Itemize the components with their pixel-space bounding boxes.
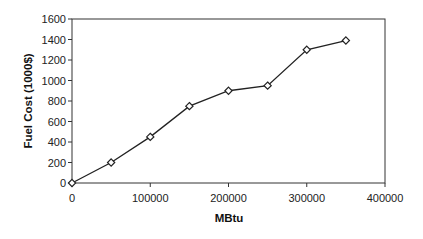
data-series [68,37,349,187]
y-tick-label: 1400 [42,34,66,46]
x-axis: 0100000200000300000400000 [69,183,403,204]
diamond-marker-icon [342,37,349,44]
y-tick-label: 1600 [42,13,66,25]
y-axis-title: Fuel Cost (1000$) [22,53,34,148]
y-tick-label: 600 [48,116,66,128]
x-tick-label: 300000 [288,192,325,204]
y-tick-label: 0 [60,177,66,189]
plot-area [72,19,385,183]
x-axis-title: MBtu [215,212,244,224]
fuel-cost-chart: 02004006008001000120014001600 0100000200… [0,0,423,239]
y-tick-label: 1200 [42,54,66,66]
y-tick-label: 400 [48,136,66,148]
y-tick-label: 200 [48,157,66,169]
x-tick-label: 200000 [210,192,247,204]
plot-border [72,19,385,183]
diamond-marker-icon [225,87,232,94]
x-tick-label: 100000 [132,192,169,204]
diamond-marker-icon [108,159,115,166]
x-tick-label: 0 [69,192,75,204]
diamond-marker-icon [68,179,75,186]
x-tick-label: 400000 [367,192,404,204]
y-tick-label: 800 [48,95,66,107]
y-axis: 02004006008001000120014001600 [42,13,72,189]
y-tick-label: 1000 [42,75,66,87]
